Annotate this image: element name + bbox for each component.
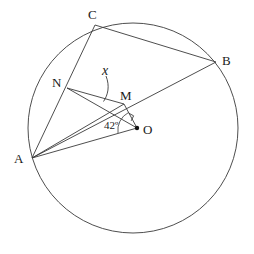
point-label-B: B [222,54,231,67]
angle-label-42: 42º [104,120,118,131]
segment-N-M [67,88,124,104]
point-label-A: A [14,152,23,165]
segment-A-C [32,25,95,158]
point-label-C: C [88,8,97,21]
geometry-canvas [0,0,254,254]
angle-arc-42 [118,113,129,134]
angle-x-leader [104,76,109,102]
angle-label-x: x [102,64,108,78]
point-label-N: N [52,76,61,89]
main-circle [28,23,238,233]
point-label-O: O [143,123,152,136]
segment-A-O [32,128,137,158]
point-label-M: M [120,89,132,102]
segment-C-B [95,25,216,62]
geometry-figure: A B C N M O 42º x [0,0,254,254]
segment-A-M [32,104,124,158]
center-point-dot-O [135,126,139,130]
